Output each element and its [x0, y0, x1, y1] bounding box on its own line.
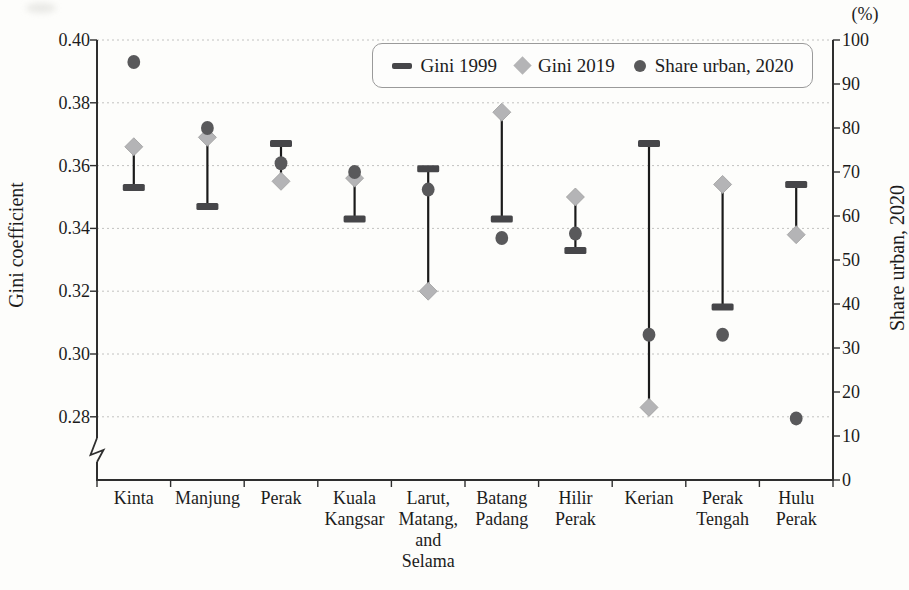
- right-axis-tick-label: 40: [842, 293, 896, 315]
- right-axis-tick-label: 50: [842, 249, 896, 271]
- left-axis-tick-label: 0.40: [36, 29, 90, 51]
- left-axis-tick-label: 0.32: [36, 280, 90, 302]
- right-axis-tick-label: 20: [842, 381, 896, 403]
- legend-item-gini-2019: Gini 2019: [516, 55, 615, 77]
- right-axis-tick-label: 10: [842, 425, 896, 447]
- right-axis-tick-label: 90: [842, 73, 896, 95]
- right-axis-tick-label: 60: [842, 205, 896, 227]
- left-axis-tick-label: 0.30: [36, 343, 90, 365]
- legend-item-gini-1999: Gini 1999: [392, 55, 498, 77]
- legend-label: Gini 2019: [538, 55, 615, 77]
- legend-label: Gini 1999: [421, 55, 498, 77]
- diamond-icon: [513, 56, 531, 74]
- right-axis-tick-label: 80: [842, 117, 896, 139]
- left-axis-tick-label: 0.34: [36, 217, 90, 239]
- left-axis-tick-label: 0.28: [36, 406, 90, 428]
- figure-canvas: (%) Gini coefficient Share urban, 2020 0…: [0, 0, 909, 590]
- legend-label: Share urban, 2020: [655, 55, 794, 77]
- legend: Gini 1999 Gini 2019 Share urban, 2020: [372, 43, 813, 88]
- axis-labels-layer: 0.400.380.360.340.320.300.28100908070605…: [0, 0, 909, 590]
- right-axis-tick-label: 100: [842, 29, 896, 51]
- right-axis-tick-label: 30: [842, 337, 896, 359]
- dash-icon: [392, 63, 412, 69]
- left-axis-tick-label: 0.38: [36, 92, 90, 114]
- right-axis-tick-label: 70: [842, 161, 896, 183]
- left-axis-tick-label: 0.36: [36, 155, 90, 177]
- right-axis-tick-label: 0: [842, 469, 896, 491]
- legend-item-share-urban: Share urban, 2020: [634, 55, 794, 77]
- category-label-hulu-perak: Hulu Perak: [749, 488, 843, 530]
- circle-icon: [634, 60, 646, 72]
